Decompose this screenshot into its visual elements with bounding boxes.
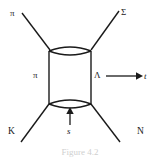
label-internal-meson: π xyxy=(33,71,38,80)
label-incoming-meson: π xyxy=(10,9,15,18)
t-channel-arrow xyxy=(106,72,143,80)
leg-incoming-meson-line xyxy=(22,13,50,50)
leg-incoming-kaon-line xyxy=(21,104,49,142)
label-t-channel: t xyxy=(144,72,147,81)
cylinder-top-arc-upper xyxy=(49,47,91,51)
cylinder-bottom-arc-upper xyxy=(49,100,91,104)
label-incoming-kaon: K xyxy=(8,127,15,137)
leg-outgoing-sigma-line xyxy=(91,11,119,50)
figure-caption: Figure 4.2 xyxy=(0,147,160,159)
label-internal-lambda: Λ xyxy=(94,71,101,80)
label-outgoing-sigma: Σ xyxy=(121,8,126,17)
label-outgoing-nucleon: N xyxy=(137,127,144,137)
cylinder-top-arc-lower xyxy=(49,51,91,55)
leg-outgoing-nucleon-line xyxy=(91,104,120,142)
label-s-channel: s xyxy=(67,127,71,136)
duality-diagram-figure: π Σ π Λ t s K N Figure 4.2 xyxy=(0,0,160,159)
diagram-canvas xyxy=(0,0,160,159)
s-channel-arrow xyxy=(66,107,73,125)
